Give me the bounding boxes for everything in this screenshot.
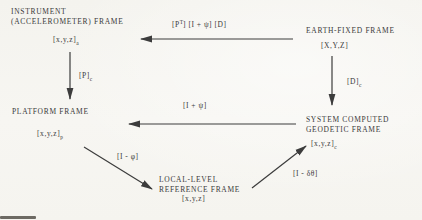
instrument-frame-title-line1: INSTRUMENT <box>11 7 123 17</box>
computed-frame-title-line1: SYSTEM COMPUTED <box>306 115 389 125</box>
instrument-frame-coords: [x,y,z]a <box>53 35 79 46</box>
platform-coords-subscript: p <box>60 134 63 140</box>
node-platform-frame: PLATFORM FRAME <box>12 107 89 117</box>
computed-frame-title-line2: GEODETIC FRAME <box>306 125 389 135</box>
p-matrix-subscript: c <box>90 76 92 82</box>
local-level-coords: [x,y,z] <box>182 194 205 203</box>
node-earth-fixed-frame: EARTH-FIXED FRAME <box>306 26 395 36</box>
edge-label-computed-to-platform: [I + ψ] <box>183 101 207 110</box>
node-system-computed-geodetic-frame: SYSTEM COMPUTED GEODETIC FRAME <box>306 115 389 134</box>
node-local-level-reference-frame: LOCAL-LEVEL REFERENCE FRAME <box>159 175 240 194</box>
local-level-title-line2: REFERENCE FRAME <box>159 185 240 195</box>
edge-label-instrument-to-platform: [P]c <box>79 71 92 82</box>
computed-coords-subscript: c <box>334 144 336 150</box>
local-level-title-line1: LOCAL-LEVEL <box>159 175 240 185</box>
instrument-frame-title-line2: (ACCELEROMETER) FRAME <box>11 17 123 27</box>
edge-label-earth-to-instrument: [PT] [I + ψ] [D] <box>172 19 226 29</box>
edge-label-local-level-to-computed: [I - δθ] <box>293 169 318 178</box>
edge-label-platform-to-local-level: [I - φ] <box>117 152 139 161</box>
earth-fixed-frame-title: EARTH-FIXED FRAME <box>306 26 395 36</box>
coordinate-frame-diagram: INSTRUMENT (ACCELEROMETER) FRAME [x,y,z]… <box>0 0 422 220</box>
platform-frame-title: PLATFORM FRAME <box>12 107 89 117</box>
platform-frame-coords: [x,y,z]p <box>37 129 63 140</box>
node-instrument-frame: INSTRUMENT (ACCELEROMETER) FRAME <box>11 7 123 26</box>
d-matrix-subscript: c <box>359 82 361 88</box>
earth-fixed-frame-coords: [X,Y,Z] <box>321 41 348 50</box>
scan-edge-artifact <box>0 216 36 219</box>
arrow-local-level-to-computed <box>252 146 306 188</box>
edge-label-earth-to-computed: [D]c <box>347 77 361 88</box>
instrument-coords-subscript: a <box>76 40 78 46</box>
computed-frame-coords: [x,y,z]c <box>311 139 337 150</box>
